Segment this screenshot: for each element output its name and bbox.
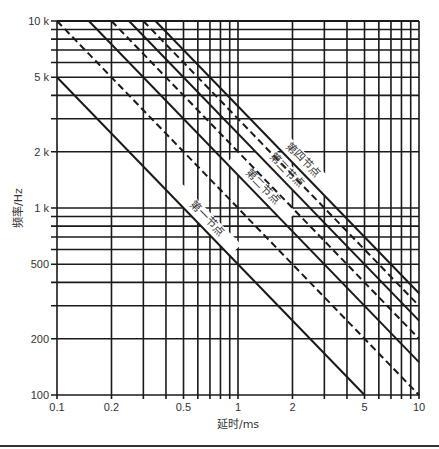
x-tick-label: 0.1 <box>49 401 64 413</box>
solid-series-line <box>89 21 419 362</box>
x-axis-title: 延时/ms <box>217 418 259 431</box>
y-tick-label: 2 k <box>34 146 49 158</box>
bottom-divider <box>0 445 439 447</box>
grid-lines <box>51 21 419 399</box>
x-tick-label: 0.5 <box>176 401 191 413</box>
solid-series-line <box>129 21 419 321</box>
y-tick-label: 1 k <box>34 202 49 214</box>
chart: 第一节点第二节点第三节点第四节点 0.10.20.512510 10020050… <box>0 0 439 449</box>
y-tick-label: 100 <box>31 389 49 401</box>
y-tick-label: 200 <box>31 333 49 345</box>
x-tick-label: 1 <box>235 401 241 413</box>
x-axis-ticks: 0.10.20.512510 <box>49 401 425 413</box>
x-tick-label: 5 <box>361 401 367 413</box>
y-tick-label: 10 k <box>28 15 49 27</box>
y-axis-ticks: 1002005001 k2 k5 k10 k <box>28 15 49 401</box>
x-tick-label: 10 <box>413 401 425 413</box>
x-tick-label: 0.2 <box>104 401 119 413</box>
y-tick-label: 5 k <box>34 71 49 83</box>
y-tick-label: 500 <box>31 258 49 270</box>
y-axis-title: 频率/Hz <box>11 188 25 228</box>
x-tick-label: 2 <box>289 401 295 413</box>
